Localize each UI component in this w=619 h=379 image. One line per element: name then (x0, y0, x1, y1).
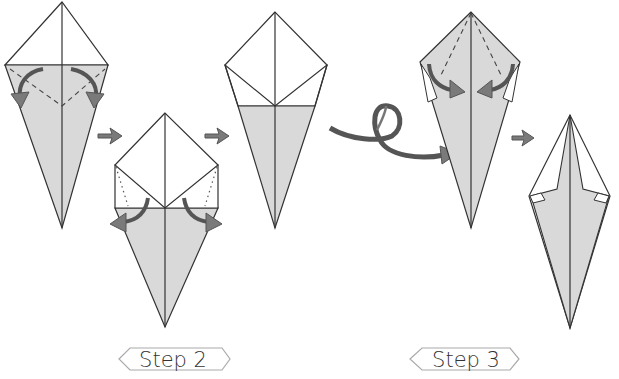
step-2-label: Step 2 (119, 348, 230, 372)
next-step-arrow-icon (98, 128, 122, 144)
next-step-arrow-icon (512, 130, 534, 146)
fig-4 (420, 12, 520, 228)
fig-2 (110, 113, 222, 327)
fig-1 (5, 2, 108, 228)
origami-diagram: Step 2 Step 3 (0, 0, 619, 379)
fig-5 (529, 115, 610, 328)
step-3-text: Step 3 (432, 348, 500, 372)
step-2-text: Step 2 (139, 348, 207, 372)
fig-3 (225, 12, 327, 228)
step-3-label: Step 3 (410, 348, 519, 372)
next-step-arrow-icon (205, 128, 229, 144)
